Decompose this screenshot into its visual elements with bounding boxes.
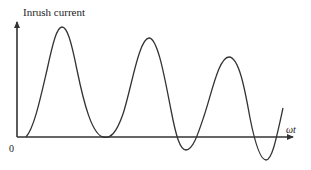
x-axis-label: ωt	[286, 124, 296, 135]
inrush-current-chart	[0, 0, 311, 170]
y-axis-label: Inrush current	[23, 6, 85, 18]
origin-label: 0	[9, 143, 14, 154]
inrush-current-waveform	[26, 27, 283, 160]
